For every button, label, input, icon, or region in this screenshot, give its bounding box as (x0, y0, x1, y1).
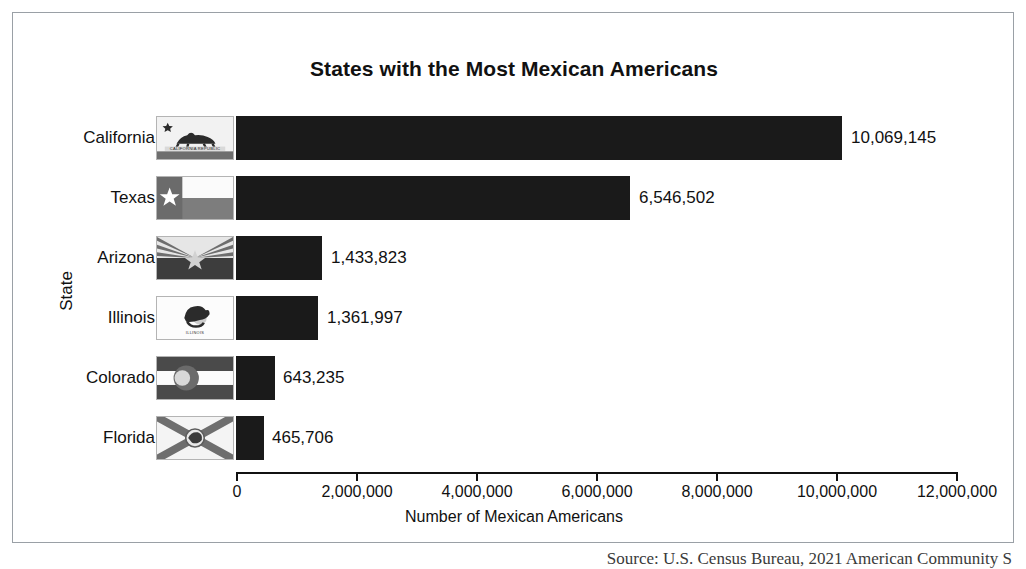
bar-row: California CALIFORNIA REPUBLIC 10,069,14… (13, 116, 1015, 176)
bar-value-texas: 6,546,502 (639, 176, 715, 220)
svg-text:CALIFORNIA REPUBLIC: CALIFORNIA REPUBLIC (170, 146, 221, 151)
bar-texas (236, 176, 630, 220)
bar-california (236, 116, 842, 160)
colorado-flag-icon (156, 356, 234, 400)
x-tick-label: 0 (233, 483, 242, 501)
figure-frame: States with the Most Mexican Americans S… (12, 12, 1014, 543)
x-tick-label: 12,000,000 (917, 483, 997, 501)
bar-value-colorado: 643,235 (283, 356, 344, 400)
x-tick (476, 472, 478, 481)
bar-row: Arizona (13, 236, 1015, 296)
florida-flag-icon (156, 416, 234, 460)
bar-row: Colorado 643,235 (13, 356, 1015, 416)
bar-row: Illinois ILLINOIS 1,361,997 (13, 296, 1015, 356)
x-tick (596, 472, 598, 481)
texas-flag-icon (156, 176, 234, 220)
x-tick (236, 472, 238, 481)
x-tick (956, 472, 958, 481)
bar-value-illinois: 1,361,997 (327, 296, 403, 340)
x-tick (836, 472, 838, 481)
x-tick-label: 4,000,000 (441, 483, 512, 501)
category-label-texas: Texas (0, 176, 155, 220)
x-tick-label: 6,000,000 (561, 483, 632, 501)
svg-text:ILLINOIS: ILLINOIS (186, 331, 204, 335)
x-tick (356, 472, 358, 481)
bar-value-california: 10,069,145 (851, 116, 936, 160)
category-label-california: California (0, 116, 155, 160)
bar-arizona (236, 236, 322, 280)
category-label-illinois: Illinois (0, 296, 155, 340)
x-axis-title: Number of Mexican Americans (13, 508, 1015, 526)
arizona-flag-icon (156, 236, 234, 280)
bar-value-florida: 465,706 (272, 416, 333, 460)
x-tick-label: 2,000,000 (321, 483, 392, 501)
category-label-arizona: Arizona (0, 236, 155, 280)
illinois-flag-icon: ILLINOIS (156, 296, 234, 340)
source-note: Source: U.S. Census Bureau, 2021 America… (0, 549, 1026, 569)
category-label-florida: Florida (0, 416, 155, 460)
california-flag-icon: CALIFORNIA REPUBLIC (156, 116, 234, 160)
x-tick-label: 10,000,000 (797, 483, 877, 501)
plot-area: California CALIFORNIA REPUBLIC 10,069,14… (13, 13, 1015, 544)
x-tick (716, 472, 718, 481)
category-label-colorado: Colorado (0, 356, 155, 400)
bar-row: Texas 6,546,502 (13, 176, 1015, 236)
bar-row: Florida 465,706 (13, 416, 1015, 476)
bar-value-arizona: 1,433,823 (331, 236, 407, 280)
x-tick-label: 8,000,000 (681, 483, 752, 501)
bar-florida (236, 416, 264, 460)
bar-colorado (236, 356, 275, 400)
bar-illinois (236, 296, 318, 340)
